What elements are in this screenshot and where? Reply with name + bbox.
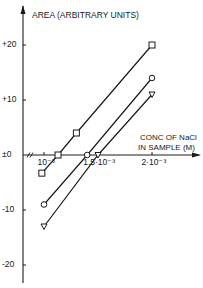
series-line bbox=[44, 78, 152, 205]
series-circles bbox=[41, 75, 155, 207]
square-marker-icon bbox=[73, 130, 79, 136]
triangle-marker-icon bbox=[41, 224, 47, 230]
x-tick-label: 2·10⁻³ bbox=[141, 157, 166, 167]
x-axis-title-line1: CONC OF NaCl bbox=[140, 133, 197, 142]
y-axis-title: AREA (ARBITRARY UNITS) bbox=[32, 10, 139, 20]
y-axis-arrow-icon bbox=[21, 5, 26, 14]
circle-marker-icon bbox=[41, 202, 47, 208]
square-marker-icon bbox=[39, 170, 45, 176]
data-series bbox=[39, 42, 155, 230]
square-marker-icon bbox=[149, 42, 155, 48]
x-tick-label: 1.5·10⁻³ bbox=[83, 157, 115, 167]
y-tick-label: +20 bbox=[2, 39, 16, 49]
x-axis-title-line2: IN SAMPLE (M) bbox=[138, 143, 195, 152]
circle-marker-icon bbox=[149, 75, 155, 81]
y-tick-label: -20 bbox=[2, 259, 14, 269]
y-tick-label: +10 bbox=[2, 94, 16, 104]
y-tick-label: -10 bbox=[2, 204, 14, 214]
square-marker-icon bbox=[55, 152, 61, 158]
y-tick-label: ±0 bbox=[2, 149, 11, 159]
x-axis-arrow-icon bbox=[192, 153, 201, 158]
x-tick-label: 10⁻³ bbox=[38, 157, 55, 167]
